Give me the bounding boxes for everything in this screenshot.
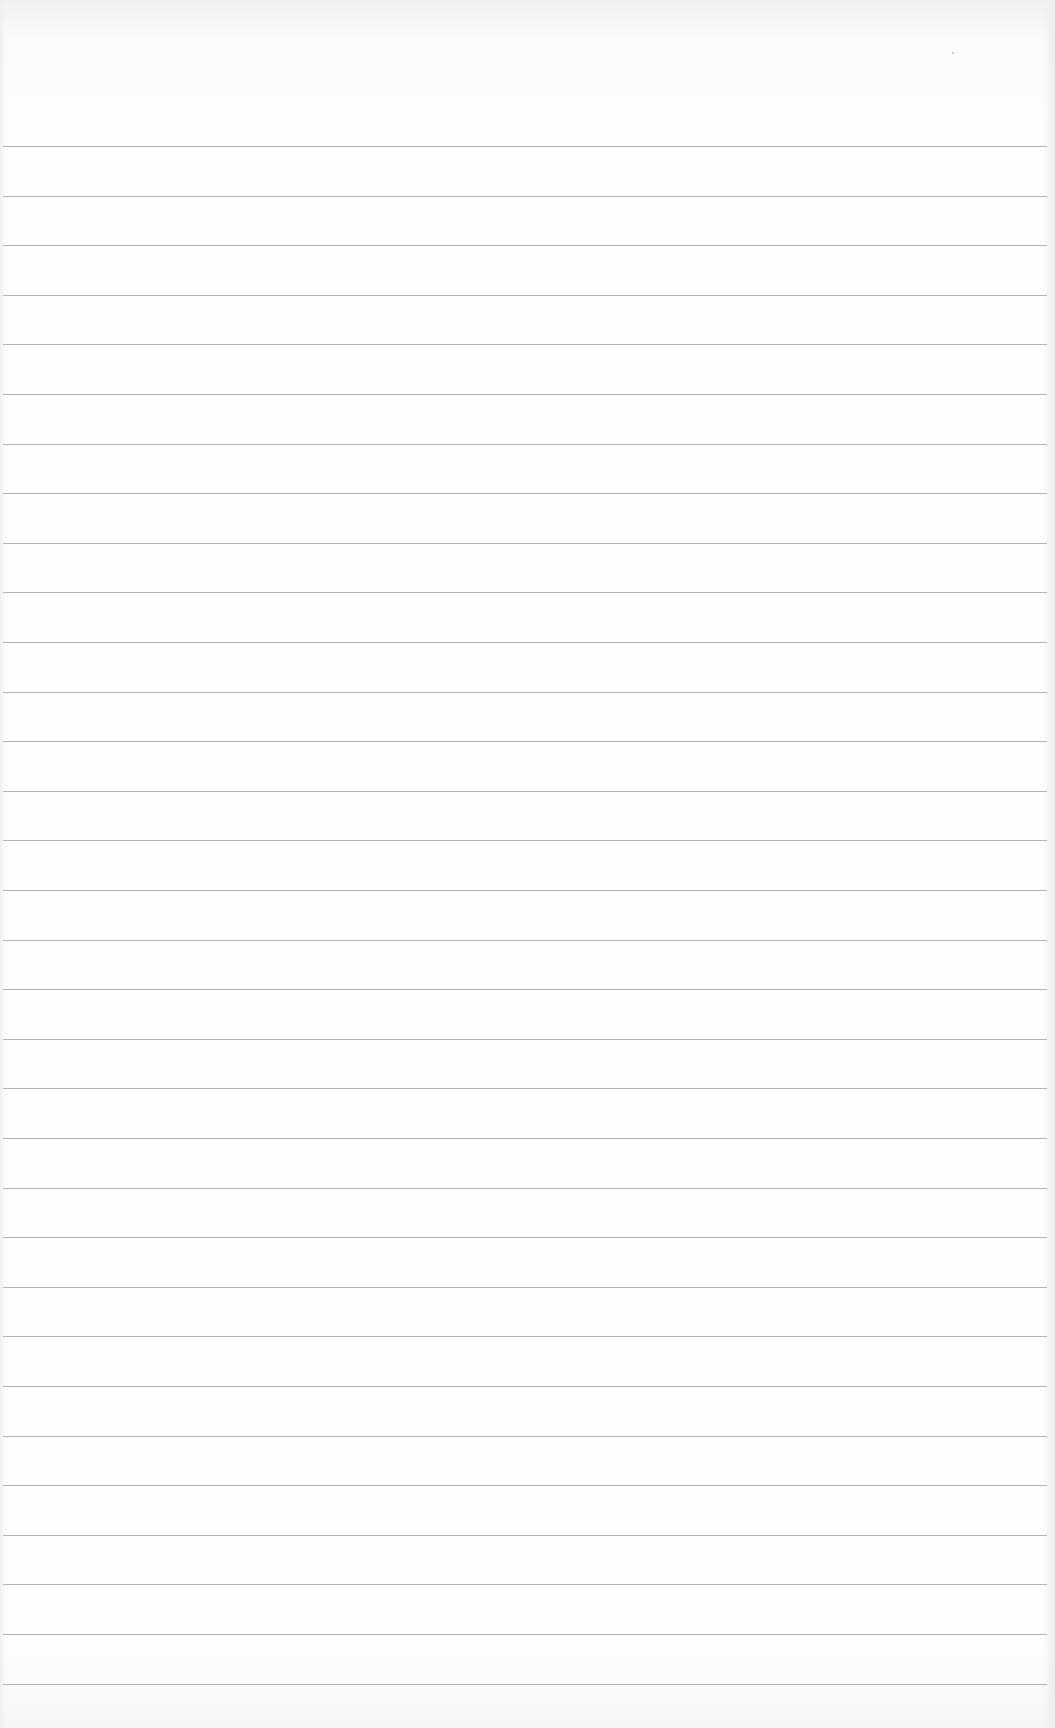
ruled-line	[3, 245, 1047, 246]
ruled-line	[3, 493, 1047, 494]
ruled-line	[3, 840, 1047, 841]
ruled-line	[3, 1386, 1047, 1387]
ruled-line	[3, 890, 1047, 891]
ruled-line	[3, 1584, 1047, 1585]
ruled-line	[3, 1138, 1047, 1139]
ruled-line	[3, 1287, 1047, 1288]
ruled-line	[3, 146, 1047, 147]
ruled-line	[3, 940, 1047, 941]
ruled-line	[3, 1237, 1047, 1238]
ruled-line	[3, 791, 1047, 792]
ruled-line	[3, 196, 1047, 197]
ruled-line	[3, 1336, 1047, 1337]
ruled-line	[3, 692, 1047, 693]
ruled-line	[3, 543, 1047, 544]
ruled-line	[3, 344, 1047, 345]
ruled-line	[3, 1188, 1047, 1189]
ruled-line	[3, 1436, 1047, 1437]
ruled-line	[3, 444, 1047, 445]
ruled-line	[3, 1634, 1047, 1635]
ruled-line	[3, 1684, 1047, 1685]
ruled-line	[3, 1535, 1047, 1536]
ruled-line	[3, 1039, 1047, 1040]
ruled-line	[3, 642, 1047, 643]
paper-right-edge	[1043, 0, 1055, 1728]
lined-paper	[0, 0, 1055, 1728]
ruled-line	[3, 1485, 1047, 1486]
ruled-line	[3, 1088, 1047, 1089]
ruled-line	[3, 592, 1047, 593]
ruled-line	[3, 295, 1047, 296]
paper-speck	[952, 52, 954, 54]
ruled-line	[3, 741, 1047, 742]
paper-left-edge	[0, 0, 6, 1728]
ruled-line	[3, 989, 1047, 990]
ruled-line	[3, 394, 1047, 395]
